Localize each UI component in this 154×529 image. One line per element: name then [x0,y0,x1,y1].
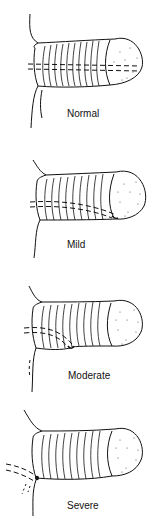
panel-normal: Normal [0,0,154,132]
label-mild: Mild [67,239,85,250]
panel-moderate: Moderate [0,264,154,396]
panel-mild: Mild [0,132,154,264]
label-moderate: Moderate [68,370,110,381]
label-normal: Normal [67,108,99,119]
label-severe: Severe [67,500,99,511]
panel-severe: Severe [0,396,154,528]
